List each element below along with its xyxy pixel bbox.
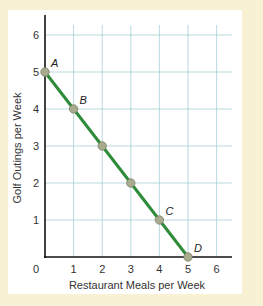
x-tick-label: 1 [71, 263, 77, 275]
y-axis-label: Golf Outings per Week [11, 92, 23, 204]
x-tick-label: 6 [214, 263, 220, 275]
x-tick-label: 0 [33, 263, 39, 275]
chart: 0123456123456Restaurant Meals per WeekGo… [0, 0, 263, 306]
data-point-marker [41, 68, 49, 76]
y-tick-label: 4 [33, 103, 39, 115]
x-tick-label: 3 [128, 263, 134, 275]
point-label-c: C [165, 205, 173, 217]
y-tick-label: 2 [33, 177, 39, 189]
data-point-marker [127, 179, 135, 187]
x-tick-label: 4 [156, 263, 162, 275]
x-tick-label: 2 [99, 263, 105, 275]
x-axis-label: Restaurant Meals per Week [69, 279, 206, 291]
data-point-marker [69, 105, 77, 113]
y-tick-label: 5 [33, 66, 39, 78]
data-point-marker [184, 253, 192, 261]
point-label-d: D [194, 242, 202, 254]
y-tick-label: 1 [33, 214, 39, 226]
x-tick-label: 5 [185, 263, 191, 275]
y-tick-label: 6 [33, 29, 39, 41]
ppf-line [45, 72, 188, 257]
point-label-a: A [50, 57, 58, 69]
point-label-b: B [80, 94, 87, 106]
data-point-marker [98, 142, 106, 150]
data-point-marker [155, 216, 163, 224]
y-tick-label: 3 [33, 140, 39, 152]
